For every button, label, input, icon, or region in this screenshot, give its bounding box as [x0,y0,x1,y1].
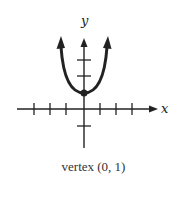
left-branch-arrow-icon [57,36,66,49]
y-axis-arrow-icon [81,38,88,47]
vertex-point [81,90,88,97]
x-axis-label: x [161,102,168,115]
x-axis-arrow-icon [149,106,158,113]
right-branch-arrow-icon [103,36,112,49]
parabola-figure: y x vertex (0, 1) [0,0,170,198]
vertex-caption: vertex (0, 1) [0,160,170,173]
y-axis-label: y [81,14,88,27]
